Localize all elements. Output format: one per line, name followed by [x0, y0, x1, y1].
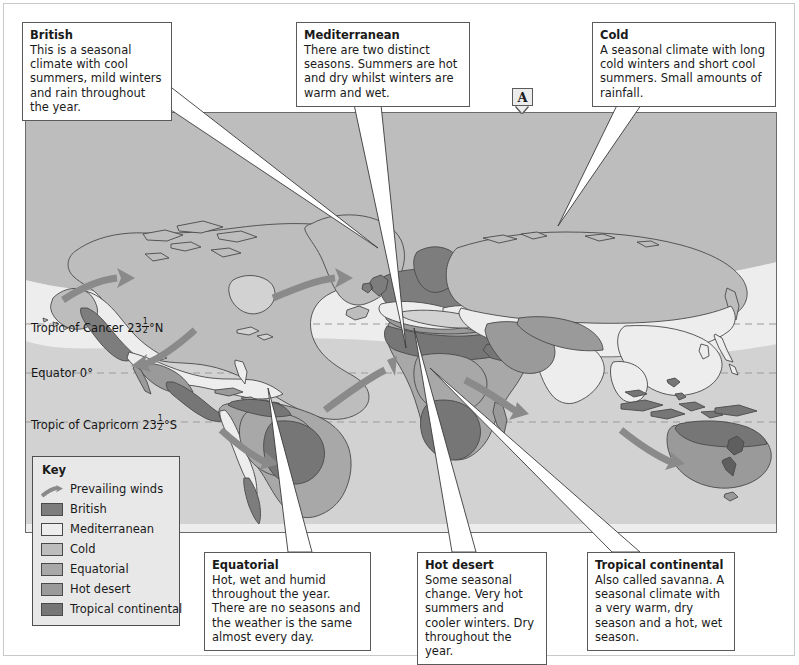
key-item-label: Equatorial	[70, 563, 129, 576]
callout-british: British This is a seasonal climate with …	[22, 22, 172, 121]
callout-equatorial-title: Equatorial	[212, 558, 363, 572]
key-item-label: Cold	[70, 543, 96, 556]
callout-cold-title: Cold	[600, 28, 768, 42]
label-tropic-of-capricorn-fraction: 12	[157, 415, 164, 432]
label-tropic-of-capricorn-pre: Tropic of Capricorn 23	[31, 418, 157, 432]
callout-tropical-continental-body: Also called savanna. A seasonal climate …	[595, 573, 727, 644]
key-swatch	[41, 583, 63, 596]
key-item-label: Mediterranean	[70, 523, 154, 536]
label-tropic-of-cancer-post: °N	[149, 321, 163, 335]
label-tropic-of-cancer: Tropic of Cancer 2312°N	[31, 318, 163, 335]
key-item-label: Hot desert	[70, 583, 131, 596]
callout-british-body: This is a seasonal climate with cool sum…	[30, 43, 164, 114]
callout-equatorial: Equatorial Hot, wet and humid throughout…	[204, 552, 371, 651]
label-tropic-of-capricorn: Tropic of Capricorn 2312°S	[31, 415, 177, 432]
callout-hot-desert-title: Hot desert	[425, 558, 539, 572]
map-label-a-pointer	[516, 106, 528, 113]
key-swatch	[41, 523, 63, 536]
key-swatch	[41, 603, 63, 616]
fraction-denominator: 2	[142, 327, 149, 335]
key-item-british: British	[41, 499, 172, 519]
key-item-hot-desert: Hot desert	[41, 579, 172, 599]
label-tropic-of-capricorn-post: °S	[164, 418, 177, 432]
callout-cold-body: A seasonal climate with long cold winter…	[600, 43, 768, 100]
key-item-label: Prevailing winds	[70, 483, 163, 496]
fraction-denominator: 2	[157, 424, 164, 432]
label-tropic-of-cancer-pre: Tropic of Cancer 23	[31, 321, 142, 335]
callout-hot-desert: Hot desert Some seasonal change. Very ho…	[417, 552, 547, 665]
map-key: Key Prevailing windsBritishMediterranean…	[32, 456, 180, 626]
label-tropic-of-cancer-fraction: 12	[142, 318, 149, 335]
callout-mediterranean: Mediterranean There are two distinct sea…	[296, 22, 470, 107]
callout-british-title: British	[30, 28, 164, 42]
prevailing-wind-arrow-icon	[41, 483, 63, 496]
key-item-prevailing-winds: Prevailing winds	[41, 479, 172, 499]
callout-tropical-continental-title: Tropical continental	[595, 558, 727, 572]
label-equator: Equator 0°	[31, 366, 93, 380]
callout-hot-desert-body: Some seasonal change. Very hot summers a…	[425, 573, 539, 658]
key-swatch	[41, 563, 63, 576]
label-equator-post: °	[87, 366, 93, 380]
key-item-label: Tropical continental	[70, 603, 182, 616]
key-item-label: British	[70, 503, 107, 516]
key-item-equatorial: Equatorial	[41, 559, 172, 579]
key-swatch	[41, 543, 63, 556]
key-title: Key	[42, 463, 172, 477]
callout-equatorial-body: Hot, wet and humid throughout the year. …	[212, 573, 363, 644]
map-label-a: A	[512, 88, 535, 112]
key-item-tropical-continental: Tropical continental	[41, 599, 172, 619]
key-item-cold: Cold	[41, 539, 172, 559]
callout-mediterranean-title: Mediterranean	[304, 28, 462, 42]
key-swatch	[41, 503, 63, 516]
key-rows: Prevailing windsBritishMediterraneanCold…	[41, 479, 172, 619]
key-item-mediterranean: Mediterranean	[41, 519, 172, 539]
callout-tropical-continental: Tropical continental Also called savanna…	[587, 552, 735, 651]
callout-mediterranean-body: There are two distinct seasons. Summers …	[304, 43, 462, 100]
callout-cold: Cold A seasonal climate with long cold w…	[592, 22, 776, 107]
map-label-a-text: A	[512, 88, 533, 106]
label-equator-pre: Equator 0	[31, 366, 87, 380]
